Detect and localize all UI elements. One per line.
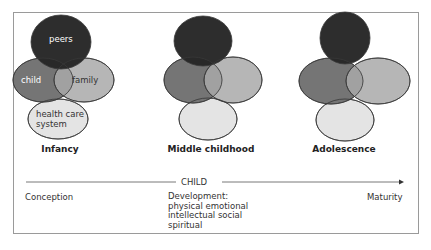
stage-adolescence: Adolescence bbox=[284, 144, 404, 154]
venn-middle-childhood bbox=[164, 16, 262, 140]
family-label: family bbox=[72, 75, 98, 85]
development-text: Development: physical emotional intellec… bbox=[168, 192, 248, 230]
arrowhead-icon bbox=[399, 180, 404, 185]
stage-middle-childhood: Middle childhood bbox=[151, 144, 271, 154]
development-line: spiritual bbox=[168, 221, 248, 231]
child-label: child bbox=[21, 75, 41, 85]
health-care-label-line1: health care bbox=[36, 109, 84, 119]
peers-label: peers bbox=[49, 34, 73, 44]
venn-adolescence bbox=[299, 12, 410, 141]
timeline-arrow bbox=[26, 180, 404, 185]
stage-infancy: Infancy bbox=[0, 144, 120, 154]
timeline-start: Conception bbox=[25, 192, 73, 202]
health-care-label-line2: system bbox=[36, 119, 67, 129]
timeline-title: CHILD bbox=[181, 177, 207, 187]
timeline-end: Maturity bbox=[367, 192, 402, 202]
